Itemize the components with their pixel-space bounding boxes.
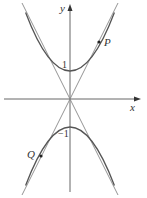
diagram: y x 1 −1 P Q — [0, 0, 147, 198]
point-p-marker — [97, 40, 100, 43]
y-axis-arrow-icon — [68, 4, 73, 11]
x-axis-arrow-icon — [134, 97, 141, 102]
point-q-label: Q — [27, 149, 35, 160]
y-tick-1: 1 — [62, 60, 67, 70]
plot-canvas — [0, 0, 147, 198]
point-q-marker — [39, 154, 42, 157]
x-axis-label: x — [130, 102, 135, 113]
y-tick-neg-1: −1 — [58, 129, 69, 139]
point-p-label: P — [104, 37, 111, 48]
y-axis-label: y — [60, 3, 65, 14]
